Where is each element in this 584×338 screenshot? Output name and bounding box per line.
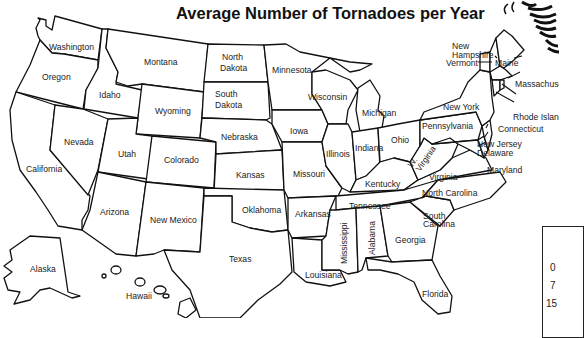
label-south-dakota-2: Dakota bbox=[215, 100, 242, 110]
label-new-hampshire-2: Hampshire bbox=[452, 50, 494, 60]
label-utah: Utah bbox=[118, 149, 136, 159]
label-minnesota: Minnesota bbox=[272, 65, 312, 75]
label-arkansas: Arkansas bbox=[295, 209, 331, 219]
label-maryland: Maryland bbox=[487, 165, 523, 175]
label-california: California bbox=[26, 164, 63, 174]
label-kentucky: Kentucky bbox=[365, 179, 401, 189]
label-virginia: Virginia bbox=[429, 172, 458, 182]
label-connecticut: Connecticut bbox=[498, 124, 544, 134]
label-pennsylvania: Pennsylvania bbox=[422, 121, 473, 131]
label-maine: Maine bbox=[495, 58, 519, 68]
label-rhode-island: Rhode Island bbox=[513, 112, 559, 122]
map-title: Average Number of Tornadoes per Year bbox=[176, 4, 485, 22]
label-colorado: Colorado bbox=[164, 155, 199, 165]
label-louisiana: Louisiana bbox=[305, 270, 342, 280]
label-illinois: Illinois bbox=[326, 149, 350, 159]
state-florida[interactable] bbox=[366, 258, 452, 314]
legend-value-2: 15 bbox=[546, 298, 557, 309]
label-north-dakota-2: Dakota bbox=[220, 63, 247, 73]
label-michigan: Michigan bbox=[362, 108, 397, 118]
label-north-carolina: North Carolina bbox=[422, 188, 478, 198]
label-oklahoma: Oklahoma bbox=[242, 205, 281, 215]
label-massachusetts: Massachuse bbox=[515, 79, 559, 89]
label-missouri: Missouri bbox=[293, 169, 325, 179]
label-washington: Washington bbox=[49, 42, 94, 52]
label-texas: Texas bbox=[229, 254, 251, 264]
label-mississippi: Mississippi bbox=[339, 222, 349, 264]
label-south-carolina-2: Carolina bbox=[423, 219, 455, 229]
label-south-dakota-1: South bbox=[215, 89, 238, 99]
label-new-york: New York bbox=[443, 102, 480, 112]
label-nevada: Nevada bbox=[64, 137, 94, 147]
label-georgia: Georgia bbox=[395, 235, 426, 245]
label-wisconsin: Wisconsin bbox=[308, 92, 347, 102]
label-florida: Florida bbox=[422, 289, 448, 299]
label-idaho: Idaho bbox=[99, 90, 121, 100]
legend-value-1: 7 bbox=[550, 280, 556, 291]
legend-value-0: 0 bbox=[550, 262, 556, 273]
label-kansas: Kansas bbox=[236, 170, 265, 180]
label-indiana: Indiana bbox=[355, 143, 383, 153]
label-oregon: Oregon bbox=[42, 72, 71, 82]
label-north-dakota-1: North bbox=[222, 52, 243, 62]
legend-box bbox=[542, 226, 584, 338]
label-arizona: Arizona bbox=[100, 207, 129, 217]
label-tennessee: Tennessee bbox=[349, 201, 391, 211]
label-hawaii: Hawaii bbox=[126, 291, 152, 301]
label-nebraska: Nebraska bbox=[221, 132, 258, 142]
label-new-mexico: New Mexico bbox=[150, 215, 197, 225]
label-montana: Montana bbox=[144, 57, 178, 67]
label-delaware: Delaware bbox=[477, 148, 514, 158]
label-alaska: Alaska bbox=[30, 264, 56, 274]
label-iowa: Iowa bbox=[290, 126, 308, 136]
label-ohio: Ohio bbox=[391, 135, 409, 145]
label-wyoming: Wyoming bbox=[155, 106, 191, 116]
label-alabama: Alabama bbox=[367, 221, 377, 255]
